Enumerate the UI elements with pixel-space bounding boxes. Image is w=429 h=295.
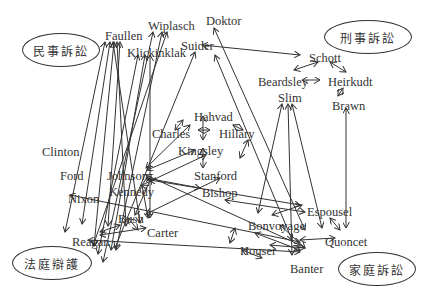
node-hahvad: Hahvad [194, 111, 233, 124]
node-suider: Suider [181, 40, 214, 53]
category-defense: 法庭辯護 [12, 246, 92, 280]
category-civil: 民事訴訟 [22, 33, 100, 67]
node-heirkudt: Heirkudt [328, 76, 372, 89]
node-johnson: Johnson [107, 170, 148, 183]
node-brawn: Brawn [332, 100, 365, 113]
category-family: 家庭訴訟 [338, 252, 416, 286]
edge-arrow [240, 140, 248, 158]
edge-arrow [230, 228, 235, 243]
node-schott: Schott [309, 52, 341, 65]
edge-arrow [103, 32, 153, 262]
node-faullen: Faullen [105, 30, 143, 43]
node-bonvoyage: Bonvoyage [248, 220, 305, 233]
node-hillary: Hillary [219, 128, 254, 141]
edge-arrow [202, 45, 300, 55]
node-charles: Charles [152, 128, 190, 141]
node-bishop: Bishop [202, 187, 237, 200]
edge-arrow [225, 200, 305, 212]
node-klickinklak: Klickinklak [127, 47, 186, 60]
category-criminal: 刑事訴訟 [324, 20, 412, 54]
node-quoncet: Quoncet [325, 236, 367, 249]
node-nixon: Nixon [68, 193, 99, 206]
node-houser: Houser [240, 245, 276, 258]
node-stanford: Stanford [194, 170, 237, 183]
node-wiplasch: Wiplasch [148, 20, 195, 33]
edge-arrow [330, 218, 340, 230]
node-beardsley: Beardsley [258, 76, 308, 89]
node-kennedy: Kennedy [109, 186, 154, 199]
node-bush: Bush [118, 213, 144, 226]
node-reagan: Reagan [72, 236, 109, 249]
node-slim: Slim [278, 92, 302, 105]
node-clinton: Clinton [42, 146, 80, 159]
edge-arrow [258, 104, 282, 213]
edge-arrow [338, 88, 343, 96]
node-doktor: Doktor [206, 15, 241, 28]
node-banter: Banter [290, 263, 323, 276]
node-carter: Carter [147, 227, 178, 240]
node-kingsley: Kingsley [178, 145, 223, 158]
node-espousel: Espousel [307, 206, 352, 219]
node-ford: Ford [60, 170, 84, 183]
